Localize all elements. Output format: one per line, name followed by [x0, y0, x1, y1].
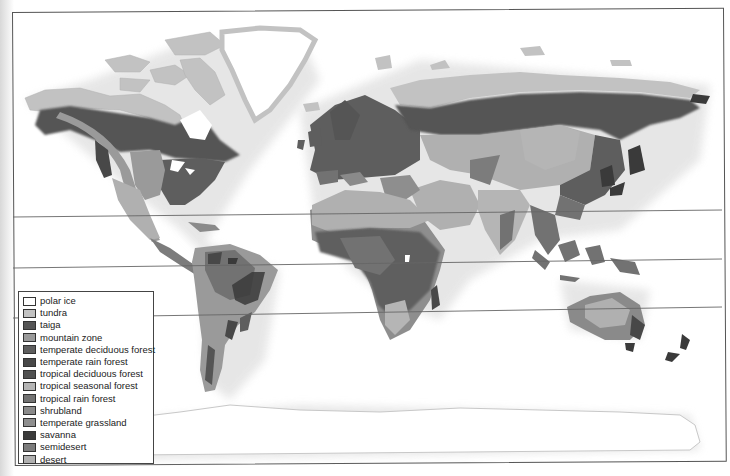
legend-item-temperate-grassland: temperate grassland [23, 417, 153, 429]
legend-item-desert: desert [23, 453, 153, 465]
legend-item-taiga: taiga [23, 319, 153, 331]
swatch-tropical-rain-forest [23, 394, 36, 403]
legend-label: mountain zone [40, 332, 102, 344]
swatch-tundra [23, 309, 36, 318]
legend-label: tropical deciduous forest [40, 368, 143, 380]
legend-label: polar ice [40, 295, 76, 307]
swatch-polar-ice [23, 297, 36, 306]
legend-label: taiga [40, 319, 61, 331]
legend-item-mountain-zone: mountain zone [23, 332, 153, 344]
swatch-temperate-rain-forest [23, 358, 36, 367]
swatch-mountain-zone [23, 333, 36, 342]
legend-label: temperate grassland [40, 417, 127, 429]
map-legend: polar ice tundra taiga mountain zone tem… [18, 291, 154, 464]
legend-label: desert [40, 454, 66, 466]
swatch-shrubland [23, 406, 36, 415]
swatch-savanna [23, 431, 36, 440]
legend-item-temperate-deciduous-forest: temperate deciduous forest [23, 344, 153, 356]
legend-item-polar-ice: polar ice [23, 295, 153, 307]
swatch-temperate-deciduous-forest [23, 345, 36, 354]
legend-label: shrubland [40, 405, 82, 417]
legend-item-savanna: savanna [23, 429, 153, 441]
new-zealand [665, 334, 690, 362]
swatch-tropical-deciduous-forest [23, 370, 36, 379]
legend-item-tropical-rain-forest: tropical rain forest [23, 393, 153, 405]
legend-item-temperate-rain-forest: temperate rain forest [23, 356, 153, 368]
swatch-taiga [23, 321, 36, 330]
legend-label: tropical rain forest [40, 393, 116, 405]
legend-item-tropical-seasonal-forest: tropical seasonal forest [23, 380, 153, 392]
legend-label: tundra [40, 307, 67, 319]
legend-label: semidesert [40, 441, 86, 453]
swatch-temperate-grassland [23, 418, 36, 427]
swatch-semidesert [23, 443, 36, 452]
legend-label: savanna [40, 429, 76, 441]
swatch-desert [23, 455, 36, 464]
legend-item-tundra: tundra [23, 307, 153, 319]
legend-item-tropical-deciduous-forest: tropical deciduous forest [23, 368, 153, 380]
legend-item-shrubland: shrubland [23, 405, 153, 417]
legend-label: tropical seasonal forest [40, 380, 138, 392]
antarctica [130, 405, 700, 455]
legend-label: temperate rain forest [40, 356, 128, 368]
swatch-tropical-seasonal-forest [23, 382, 36, 391]
legend-item-semidesert: semidesert [23, 441, 153, 453]
legend-label: temperate deciduous forest [40, 344, 155, 356]
